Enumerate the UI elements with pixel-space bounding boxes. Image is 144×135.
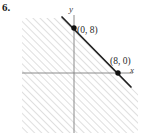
x-axis-label: x xyxy=(130,66,134,75)
point-x-intercept xyxy=(115,70,120,75)
inequality-graph-figure xyxy=(0,0,144,135)
point-y-intercept xyxy=(71,25,76,30)
figure-page: 6. y x (0, 8) (8, 0) xyxy=(0,0,144,135)
point-label-y-intercept: (0, 8) xyxy=(77,25,98,35)
point-label-x-intercept: (8, 0) xyxy=(110,56,131,66)
y-axis-label: y xyxy=(69,5,73,14)
